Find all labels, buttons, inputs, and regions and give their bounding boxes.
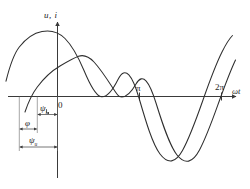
psi-i-subscript: i (46, 109, 48, 115)
phase-label-psi-u: ψu (29, 136, 37, 147)
waveform-figure: u, i 0 π 2π ωt ψi φ ψu (0, 0, 250, 189)
psi-u-subscript: u (35, 141, 38, 147)
tick-label-pi: π (136, 84, 141, 93)
phase-label-psi-i: ψi (40, 104, 47, 115)
origin-label: 0 (58, 101, 63, 110)
waveform-canvas (0, 0, 250, 189)
curve-current-i (25, 56, 236, 162)
x-axis-label: ωt (232, 87, 240, 96)
tick-label-two-pi: 2π (215, 83, 224, 92)
y-axis-label: u, i (44, 11, 58, 20)
phase-label-phi: φ (25, 119, 30, 128)
